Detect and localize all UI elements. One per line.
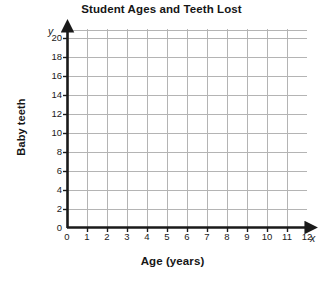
- y-tick-label: 12: [40, 109, 62, 119]
- y-axis-title: Baby teeth: [15, 80, 27, 174]
- chart-figure: Student Ages and Teeth Lost 024681012141…: [0, 0, 323, 281]
- y-tick-label: 6: [40, 166, 62, 176]
- x-tick-label: 12: [295, 232, 319, 242]
- x-axis-variable-label: x: [310, 232, 315, 244]
- y-tick-label: 18: [40, 52, 62, 62]
- y-tick-label: 4: [40, 185, 62, 195]
- y-tick-label: 14: [40, 90, 62, 100]
- y-tick-label: 16: [40, 71, 62, 81]
- y-tick-label: 2: [40, 204, 62, 214]
- x-axis-title: Age (years): [0, 255, 323, 267]
- y-tick-label: 8: [40, 147, 62, 157]
- x-axis-tick-labels: 0123456789101112: [67, 232, 323, 246]
- y-axis-variable-label: y: [48, 25, 53, 37]
- y-tick-label: 10: [40, 128, 62, 138]
